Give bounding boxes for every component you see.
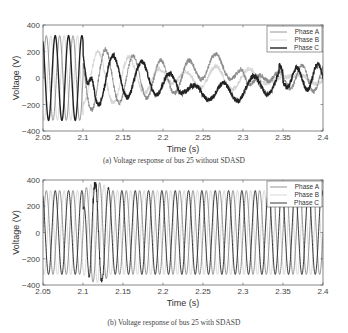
- legend: Phase APhase BPhase C: [267, 26, 322, 52]
- y-tick-label: −400: [22, 127, 41, 136]
- x-tick-label: 2.35: [275, 287, 291, 296]
- legend-label: Phase B: [294, 191, 319, 198]
- caption-b: (b) Voltage response of bus 25 with SDAS…: [0, 318, 348, 327]
- voltage-chart-with-sdasd: 2.052.12.152.22.252.32.352.44002000−200−…: [0, 155, 348, 333]
- y-tick-label: −200: [22, 255, 41, 264]
- y-tick-label: 200: [27, 202, 41, 211]
- x-tick-label: 2.3: [237, 133, 249, 142]
- x-tick-label: 2.1: [77, 133, 89, 142]
- legend-label: Phase B: [294, 36, 319, 43]
- x-tick-label: 2.15: [115, 133, 131, 142]
- legend-label: Phase C: [294, 199, 319, 206]
- y-tick-label: 400: [27, 176, 41, 185]
- x-tick-label: 2.2: [157, 133, 169, 142]
- x-tick-label: 2.4: [317, 133, 329, 142]
- y-axis-label: Voltage (V): [11, 56, 21, 101]
- legend: Phase APhase BPhase C: [267, 181, 322, 207]
- legend-label: Phase A: [295, 183, 320, 190]
- chart-panel-a: 2.052.12.152.22.252.32.352.44002000−200−…: [0, 0, 348, 170]
- legend-label: Phase C: [294, 44, 319, 51]
- voltage-chart-without-sdasd: 2.052.12.152.22.252.32.352.44002000−200−…: [0, 0, 348, 170]
- y-tick-label: −200: [22, 101, 41, 110]
- x-tick-label: 2.35: [275, 133, 291, 142]
- x-tick-label: 2.3: [237, 287, 249, 296]
- x-tick-label: 2.4: [317, 287, 329, 296]
- y-tick-label: 200: [27, 48, 41, 57]
- x-tick-label: 2.25: [195, 287, 211, 296]
- y-axis-label: Voltage (V): [11, 210, 21, 255]
- legend-label: Phase A: [295, 28, 320, 35]
- chart-panel-b: 2.052.12.152.22.252.32.352.44002000−200−…: [0, 155, 348, 333]
- x-tick-label: 2.15: [115, 287, 131, 296]
- x-axis-label: Time (s): [167, 144, 200, 154]
- x-tick-label: 2.25: [195, 133, 211, 142]
- x-tick-label: 2.2: [157, 287, 169, 296]
- x-axis-label: Time (s): [167, 298, 200, 308]
- y-tick-label: 400: [27, 21, 41, 30]
- y-tick-label: −400: [22, 281, 41, 290]
- y-tick-label: 0: [36, 74, 41, 83]
- x-tick-label: 2.1: [77, 287, 89, 296]
- y-tick-label: 0: [36, 229, 41, 238]
